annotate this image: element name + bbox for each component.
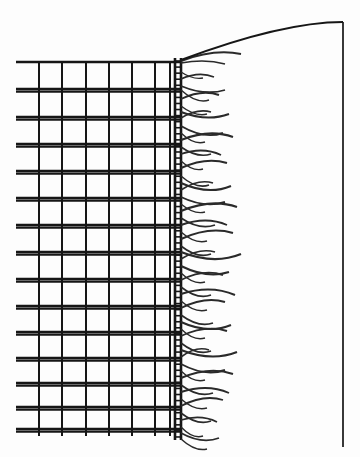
selvedge-band-group [174, 58, 181, 440]
woven-mesh-illustration [0, 0, 360, 457]
figure-root: Black and white line drawing of a rectan… [0, 0, 360, 457]
